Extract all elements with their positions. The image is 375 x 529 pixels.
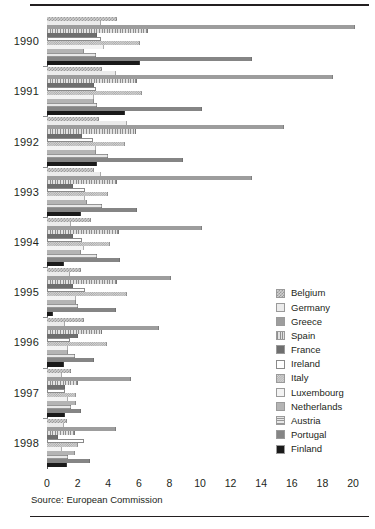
bar-finland-1991[interactable]: [47, 111, 125, 115]
top-divider: [30, 4, 369, 6]
legend-item-luxembourg[interactable]: Luxembourg: [276, 385, 375, 399]
year-axis-labels: 199019911992199319941995199619971998: [0, 17, 47, 469]
legend-swatch-france-icon: [276, 345, 285, 354]
bar-finland-1990[interactable]: [47, 61, 140, 65]
year-group-1990: [47, 17, 353, 67]
bar-row: [47, 463, 353, 467]
legend-label: Italy: [291, 373, 308, 383]
legend-label: Luxembourg: [291, 388, 344, 398]
x-tick-2: 2: [75, 477, 81, 489]
x-tick-6: 6: [136, 477, 142, 489]
legend-swatch-finland-icon: [276, 445, 285, 454]
legend-item-spain[interactable]: Spain: [276, 329, 375, 343]
year-group-1991: [47, 67, 353, 117]
legend-swatch-luxembourg-icon: [276, 388, 285, 397]
year-group-1992: [47, 117, 353, 167]
year-label-1997: 1997: [14, 387, 39, 399]
chart-page: 199019911992199319941995199619971998 024…: [0, 0, 375, 529]
bar-finland-1994[interactable]: [47, 262, 64, 266]
legend-swatch-austria-icon: [276, 416, 285, 425]
year-label-1991: 1991: [14, 85, 39, 97]
bar-finland-1996[interactable]: [47, 362, 64, 366]
year-label-1996: 1996: [14, 336, 39, 348]
legend-label: Portugal: [291, 430, 326, 440]
x-tick-10: 10: [194, 477, 206, 489]
legend-item-portugal[interactable]: Portugal: [276, 428, 375, 442]
bar-row: [47, 61, 353, 65]
bar-finland-1998[interactable]: [47, 463, 67, 467]
x-tick-18: 18: [317, 477, 329, 489]
x-tick-0: 0: [44, 477, 50, 489]
legend-label: Ireland: [291, 359, 320, 369]
legend-label: Finland: [291, 444, 322, 454]
bar-finland-1992[interactable]: [47, 162, 97, 166]
year-group-1994: [47, 218, 353, 268]
x-axis: 02468101214161820: [47, 469, 353, 493]
year-label-1994: 1994: [14, 236, 39, 248]
year-label-1993: 1993: [14, 186, 39, 198]
legend-item-greece[interactable]: Greece: [276, 314, 375, 328]
legend-item-belgium[interactable]: Belgium: [276, 286, 375, 300]
x-tick-4: 4: [105, 477, 111, 489]
legend-swatch-ireland-icon: [276, 360, 285, 369]
legend-item-italy[interactable]: Italy: [276, 371, 375, 385]
legend-item-finland[interactable]: Finland: [276, 442, 375, 456]
legend-label: France: [291, 345, 321, 355]
legend-swatch-belgium-icon: [276, 289, 285, 298]
source-note: Source: European Commission: [31, 494, 162, 505]
legend-label: Greece: [291, 317, 322, 327]
legend-label: Belgium: [291, 288, 325, 298]
legend-label: Netherlands: [291, 402, 342, 412]
legend-swatch-portugal-icon: [276, 430, 285, 439]
year-label-1995: 1995: [14, 286, 39, 298]
legend-swatch-italy-icon: [276, 374, 285, 383]
x-tick-14: 14: [255, 477, 267, 489]
legend-swatch-spain-icon: [276, 331, 285, 340]
year-group-1993: [47, 168, 353, 218]
legend-item-germany[interactable]: Germany: [276, 300, 375, 314]
legend-swatch-germany-icon: [276, 303, 285, 312]
x-tick-16: 16: [286, 477, 298, 489]
legend-label: Austria: [291, 416, 321, 426]
legend-swatch-greece-icon: [276, 317, 285, 326]
bar-finland-1997[interactable]: [47, 413, 65, 417]
bar-row: [47, 162, 353, 166]
legend-swatch-netherlands-icon: [276, 402, 285, 411]
year-label-1998: 1998: [14, 437, 39, 449]
bar-row: [47, 111, 353, 115]
legend-item-ireland[interactable]: Ireland: [276, 357, 375, 371]
bar-row: [47, 262, 353, 266]
bar-finland-1993[interactable]: [47, 212, 81, 216]
legend-label: Germany: [291, 303, 330, 313]
legend-item-netherlands[interactable]: Netherlands: [276, 400, 375, 414]
x-tick-12: 12: [225, 477, 237, 489]
legend-item-austria[interactable]: Austria: [276, 414, 375, 428]
x-tick-20: 20: [347, 477, 359, 489]
year-label-1990: 1990: [14, 35, 39, 47]
bar-finland-1995[interactable]: [47, 312, 53, 316]
legend-label: Spain: [291, 331, 315, 341]
bar-row: [47, 212, 353, 216]
legend-item-france[interactable]: France: [276, 343, 375, 357]
x-tick-8: 8: [166, 477, 172, 489]
legend: BelgiumGermanyGreeceSpainFranceIrelandIt…: [276, 286, 375, 456]
bottom-divider: [30, 516, 369, 517]
year-label-1992: 1992: [14, 136, 39, 148]
